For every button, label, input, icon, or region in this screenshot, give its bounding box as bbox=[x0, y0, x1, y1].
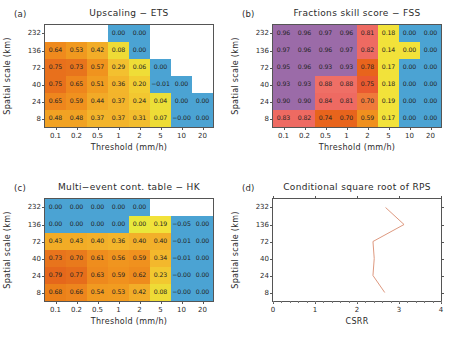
heatmap-cell: 0.34 bbox=[150, 250, 171, 267]
heatmap-cell: 0.29 bbox=[108, 59, 129, 76]
x-tick-label: 2 bbox=[137, 132, 141, 140]
heatmap-cell: 0.96 bbox=[294, 59, 315, 76]
heatmap-cell: 0.00 bbox=[399, 25, 420, 42]
heatmap-cell: 0.65 bbox=[66, 76, 87, 93]
x-minor-tick bbox=[391, 301, 392, 303]
heatmap-cell: −0.01 bbox=[150, 76, 171, 93]
x-tick-label: 0.1 bbox=[50, 306, 61, 314]
x-tick-label: 20 bbox=[198, 306, 207, 314]
x-tick-mark-top bbox=[357, 196, 358, 199]
heatmap-cell: 0.93 bbox=[294, 76, 315, 93]
heatmap-cell: 0.59 bbox=[129, 250, 150, 267]
panel-c: (c) Multi−event cont. table − HK 0.000.0… bbox=[0, 174, 228, 348]
y-tick-mark-right bbox=[441, 207, 444, 208]
y-tick-mark-right bbox=[441, 242, 444, 243]
heatmap-cell: −0.01 bbox=[171, 250, 192, 267]
y-tick-mark bbox=[42, 293, 45, 294]
x-tick-label: 0.5 bbox=[92, 306, 103, 314]
y-tick-label: 24 bbox=[260, 272, 269, 280]
heatmap-cell bbox=[171, 199, 192, 216]
x-minor-tick bbox=[281, 301, 282, 303]
x-tick-label: 2 bbox=[365, 132, 369, 140]
x-tick-mark bbox=[182, 301, 183, 304]
heatmap-cell: 0.00 bbox=[87, 199, 108, 216]
x-tick-label: 0.2 bbox=[71, 132, 82, 140]
heatmap-cell: 0.31 bbox=[129, 110, 150, 127]
panel-b-y-title: Spatial scale (km) bbox=[231, 37, 240, 114]
x-tick-label: 1 bbox=[116, 132, 120, 140]
heatmap-cell: 0.82 bbox=[294, 110, 315, 127]
heatmap-cell: 0.00 bbox=[420, 42, 441, 59]
heatmap-cell: 0.73 bbox=[66, 59, 87, 76]
heatmap-cell bbox=[192, 25, 213, 42]
y-tick-mark bbox=[270, 293, 273, 294]
x-tick-label: 0 bbox=[271, 306, 275, 314]
y-tick-mark bbox=[42, 119, 45, 120]
panel-d-x-title: CSRR bbox=[346, 317, 369, 326]
panel-a-y-title: Spatial scale (km) bbox=[3, 37, 12, 114]
x-tick-label: 5 bbox=[386, 132, 390, 140]
heatmap-cell bbox=[150, 199, 171, 216]
heatmap-cell bbox=[171, 59, 192, 76]
y-tick-label: 40 bbox=[32, 81, 41, 89]
y-tick-mark bbox=[270, 242, 273, 243]
x-tick-mark bbox=[98, 301, 99, 304]
heatmap-cell: 0.00 bbox=[45, 199, 66, 216]
heatmap-cell: 0.66 bbox=[66, 284, 87, 301]
heatmap-cell: 0.19 bbox=[378, 93, 399, 110]
heatmap-cell: 0.36 bbox=[108, 76, 129, 93]
x-minor-tick bbox=[433, 301, 434, 303]
y-tick-label: 232 bbox=[256, 29, 269, 37]
heatmap-cell: 0.00 bbox=[129, 199, 150, 216]
y-tick-mark bbox=[270, 225, 273, 226]
heatmap-cell: 0.95 bbox=[273, 59, 294, 76]
heatmap-cell bbox=[87, 25, 108, 42]
heatmap-cell: 0.61 bbox=[87, 250, 108, 267]
heatmap-cell: 0.93 bbox=[336, 59, 357, 76]
heatmap-cell bbox=[192, 59, 213, 76]
heatmap-cell: 0.59 bbox=[108, 267, 129, 284]
y-tick-mark bbox=[270, 85, 273, 86]
y-tick-mark bbox=[42, 68, 45, 69]
heatmap-cell: 0.00 bbox=[108, 25, 129, 42]
figure-root: (a) Upscaling − ETS 0.000.000.640.530.42… bbox=[0, 0, 456, 349]
panel-a-tag: (a) bbox=[14, 9, 26, 19]
heatmap-cell bbox=[192, 199, 213, 216]
panel-c-plot-area: 0.000.000.000.000.000.000.000.000.000.00… bbox=[44, 198, 214, 302]
heatmap-cell bbox=[192, 42, 213, 59]
x-tick-mark bbox=[347, 127, 348, 130]
x-tick-mark-top bbox=[399, 196, 400, 199]
heatmap-cell: 0.65 bbox=[45, 93, 66, 110]
heatmap-cell: 0.93 bbox=[315, 59, 336, 76]
heatmap-cell: 0.79 bbox=[45, 267, 66, 284]
x-tick-mark bbox=[140, 301, 141, 304]
panel-c-title: Multi−event cont. table − HK bbox=[36, 182, 222, 192]
heatmap-cell: 0.00 bbox=[87, 216, 108, 233]
heatmap-cell: 0.83 bbox=[273, 110, 294, 127]
x-tick-label: 5 bbox=[158, 132, 162, 140]
x-minor-tick bbox=[441, 301, 442, 303]
panel-d-y-title: Spatial scale (km) bbox=[231, 211, 240, 288]
x-tick-label: 3 bbox=[397, 306, 401, 314]
heatmap-cell: 0.00 bbox=[150, 59, 171, 76]
x-minor-tick bbox=[323, 301, 324, 303]
heatmap-cell: 0.07 bbox=[150, 110, 171, 127]
x-minor-tick bbox=[340, 301, 341, 303]
heatmap-cell: 0.97 bbox=[315, 25, 336, 42]
heatmap-cell: 0.97 bbox=[273, 42, 294, 59]
heatmap-cell: 0.24 bbox=[129, 93, 150, 110]
heatmap-cell: 0.00 bbox=[192, 250, 213, 267]
x-minor-tick bbox=[349, 301, 350, 303]
x-minor-tick bbox=[407, 301, 408, 303]
heatmap-cell: 0.00 bbox=[129, 42, 150, 59]
heatmap-cell: 0.00 bbox=[399, 59, 420, 76]
heatmap-cell: 0.42 bbox=[87, 42, 108, 59]
heatmap-cell: 0.51 bbox=[87, 76, 108, 93]
y-tick-mark bbox=[42, 242, 45, 243]
heatmap-cell: 0.43 bbox=[45, 233, 66, 250]
x-tick-mark bbox=[410, 127, 411, 130]
y-tick-mark bbox=[42, 102, 45, 103]
x-tick-label: 0.5 bbox=[320, 132, 331, 140]
heatmap-cell: 0.00 bbox=[420, 110, 441, 127]
heatmap-cell: 0.75 bbox=[357, 76, 378, 93]
